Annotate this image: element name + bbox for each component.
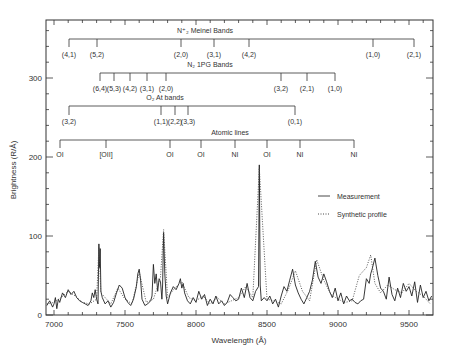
line-identification-brackets: (4,1)(5,2)(2,0)(3,1)(4,2)(1,0)(2,1)N⁺₂ M… (56, 27, 421, 159)
bracket-label: (1,0) (366, 51, 380, 59)
bracket-label: [OII] (99, 151, 112, 159)
bracket-label: (3,2) (274, 85, 288, 93)
bracket-label: (0,1) (288, 118, 302, 126)
y-tick-label: 0 (38, 311, 43, 320)
bracket-label: (2,0) (159, 85, 173, 93)
bracket-label: (3,3) (181, 118, 195, 126)
bracket-label: NI (297, 151, 304, 158)
bracket-label: (2,0) (174, 51, 188, 59)
y-tick-label: 100 (29, 232, 43, 241)
legend: MeasurementSynthetic profile (318, 193, 387, 219)
bracket-title: N₂ 1PG Bands (187, 61, 233, 68)
bracket-label: (1,1) (154, 118, 168, 126)
x-axis-label: Wavelength (Å) (212, 336, 267, 345)
x-tick-label: 7000 (45, 320, 63, 329)
bracket-label: OI (263, 151, 270, 158)
bracket-title: N⁺₂ Meinel Bands (177, 27, 234, 34)
legend-label: Synthetic profile (337, 211, 387, 219)
annotation-group: (6,4)(5,3)(4,2)(3,1)(2,0)(3,2)(2,1)(1,0)… (93, 61, 342, 93)
spectrum-series (47, 165, 432, 309)
bracket-label: (3,1) (207, 51, 221, 59)
x-tick-label: 7500 (116, 320, 134, 329)
bracket-title: Atomic lines (211, 129, 249, 136)
bracket-label: OI (56, 151, 63, 158)
y-tick-label: 200 (29, 153, 43, 162)
bracket-label: (5,3) (107, 85, 121, 93)
bracket-title: O₂ At bands (146, 94, 184, 101)
x-tick-label: 8500 (258, 320, 276, 329)
bracket-label: (6,4) (93, 85, 107, 93)
synthetic-profile-line (47, 168, 430, 304)
bracket-label: (3,1) (140, 85, 154, 93)
bracket-label: NI (351, 151, 358, 158)
annotation-group: OI[OII]OIOINIOININIAtomic lines (56, 129, 357, 159)
annotation-group: (3,2)(1,1)(2,2)(3,3)(0,1)O₂ At bands (62, 94, 302, 126)
bracket-label: (2,1) (407, 51, 421, 59)
bracket-label: (4,2) (123, 85, 137, 93)
x-tick-label: 9500 (400, 320, 418, 329)
bracket-label: (3,2) (62, 118, 76, 126)
y-tick-label: 300 (29, 74, 43, 83)
bracket-label: (5,2) (90, 51, 104, 59)
bracket-label: (2,1) (300, 85, 314, 93)
plot-frame (46, 20, 433, 315)
bracket-label: (1,0) (328, 85, 342, 93)
bracket-label: (4,2) (242, 51, 256, 59)
bracket-label: NI (232, 151, 239, 158)
spectrum-chart: 7000750080008500900095000100200300 (4,1)… (0, 0, 450, 355)
legend-label: Measurement (337, 193, 380, 200)
measurement-line (47, 165, 432, 309)
y-axis-label: Brightness (R/Å) (9, 140, 18, 199)
x-tick-label: 9000 (329, 320, 347, 329)
annotation-group: (4,1)(5,2)(2,0)(3,1)(4,2)(1,0)(2,1)N⁺₂ M… (62, 27, 421, 59)
bracket-label: OI (197, 151, 204, 158)
bracket-label: OI (166, 151, 173, 158)
bracket-label: (4,1) (62, 51, 76, 59)
x-tick-label: 8000 (187, 320, 205, 329)
plot-border (46, 20, 433, 315)
